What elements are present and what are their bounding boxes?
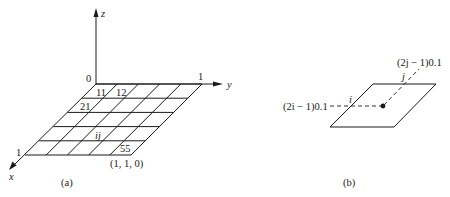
caption-b: (b) — [343, 177, 356, 189]
cell-label-11: 11 — [96, 87, 106, 98]
origin-label: 0 — [86, 73, 91, 84]
i-label: i — [349, 94, 352, 105]
cell-label-55: 55 — [120, 143, 131, 154]
cell-label-21: 21 — [80, 101, 91, 112]
x-arrowhead-icon — [9, 162, 17, 171]
x-tick-label: 1 — [16, 147, 21, 158]
j-coord-label: (2j − 1)0.1 — [397, 57, 442, 69]
x-axis-label: x — [8, 171, 14, 182]
z-axis-label: z — [100, 8, 105, 19]
panel-b: i j (2i − 1)0.1 (2j − 1)0.1 (b) — [283, 57, 442, 189]
z-arrowhead-icon — [94, 8, 99, 17]
caption-a: (a) — [61, 177, 73, 189]
z-axis: z — [94, 8, 106, 84]
corner-label: (1, 1, 0) — [110, 158, 144, 170]
i-coord-label: (2i − 1)0.1 — [283, 101, 328, 113]
y-arrowhead-icon — [213, 82, 223, 87]
j-label: j — [400, 71, 405, 82]
panel-a: z y 1 x 1 0 — [8, 8, 232, 189]
cell-label-ij: ij — [95, 130, 101, 141]
grid — [25, 84, 202, 155]
figure: z y 1 x 1 0 — [0, 0, 450, 197]
y-axis-label: y — [226, 79, 232, 90]
cell-label-12: 12 — [116, 87, 127, 98]
y-tick-label: 1 — [198, 71, 203, 82]
cell-center-dot — [381, 104, 386, 109]
